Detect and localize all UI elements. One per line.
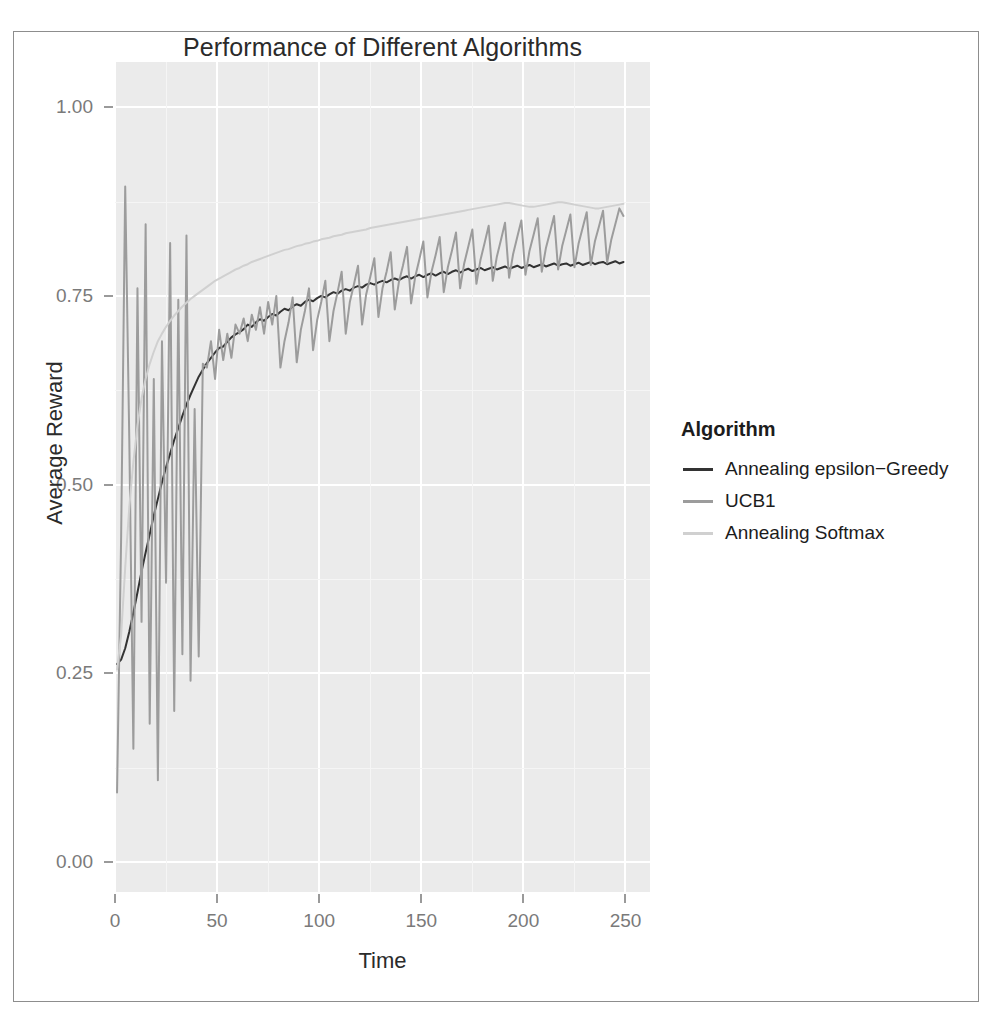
series-line	[117, 187, 623, 793]
x-tick-label: 50	[182, 911, 252, 930]
x-tick-mark	[216, 894, 218, 903]
legend-item-label: Annealing epsilon−Greedy	[725, 458, 948, 480]
y-tick-label: 1.00	[23, 97, 93, 116]
y-tick-mark	[104, 672, 113, 674]
legend-item[interactable]: Annealing epsilon−Greedy	[681, 453, 961, 485]
y-tick-mark	[104, 861, 113, 863]
x-tick-label: 200	[488, 911, 558, 930]
x-tick-mark	[624, 894, 626, 903]
x-tick-label: 100	[284, 911, 354, 930]
x-tick-mark	[114, 894, 116, 903]
x-tick-mark	[420, 894, 422, 903]
y-axis-title: Average Reward	[42, 293, 68, 593]
legend-items: Annealing epsilon−GreedyUCB1Annealing So…	[681, 453, 961, 549]
legend-title: Algorithm	[681, 418, 961, 441]
legend-item-label: UCB1	[725, 490, 776, 512]
y-tick-mark	[104, 295, 113, 297]
plot-panel	[115, 62, 650, 892]
legend-item-label: Annealing Softmax	[725, 522, 885, 544]
page-canvas: Performance of Different Algorithms 0.00…	[0, 0, 987, 1018]
y-tick-mark	[104, 484, 113, 486]
x-tick-mark	[522, 894, 524, 903]
legend-item[interactable]: UCB1	[681, 485, 961, 517]
x-tick-label: 0	[80, 911, 150, 930]
y-tick-mark	[104, 106, 113, 108]
x-tick-mark	[318, 894, 320, 903]
y-tick-label: 0.00	[23, 852, 93, 871]
series-layer	[115, 62, 650, 892]
legend-line-swatch-icon	[681, 485, 715, 517]
legend-line-swatch-icon	[681, 517, 715, 549]
chart-plot: Performance of Different Algorithms 0.00…	[0, 0, 987, 1018]
legend-item[interactable]: Annealing Softmax	[681, 517, 961, 549]
x-tick-label: 150	[386, 911, 456, 930]
x-axis-title: Time	[115, 948, 650, 974]
y-tick-label: 0.25	[23, 663, 93, 682]
x-tick-label: 250	[590, 911, 660, 930]
chart-title: Performance of Different Algorithms	[115, 33, 650, 62]
legend-line-swatch-icon	[681, 453, 715, 485]
legend: Algorithm Annealing epsilon−GreedyUCB1An…	[681, 418, 961, 549]
